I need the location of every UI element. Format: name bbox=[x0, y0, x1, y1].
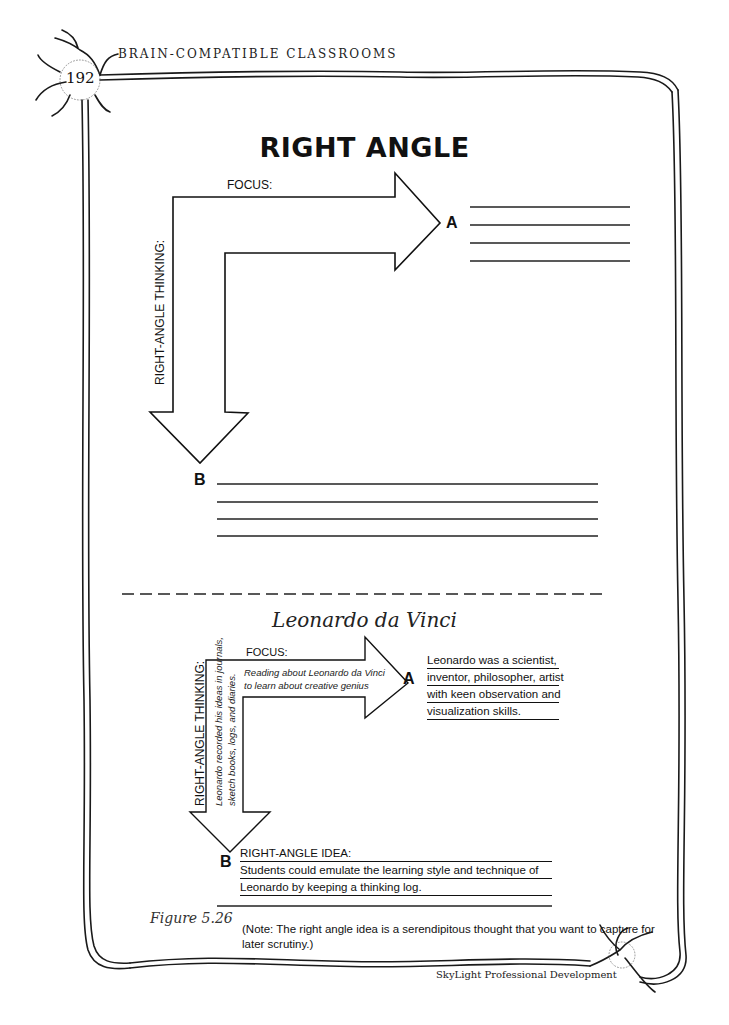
focus-text-line: Reading about Leonardo da Vinci bbox=[244, 666, 385, 679]
thinking-text-line: sketch books, logs, and diaries. bbox=[225, 637, 238, 806]
example-thinking-text: Leonardo recorded his ideas in journals,… bbox=[212, 637, 238, 806]
b-line: Leonardo by keeping a thinking log. bbox=[240, 879, 552, 896]
example-b-lines: RIGHT-ANGLE IDEA: Students could emulate… bbox=[240, 845, 552, 896]
example-a-lines: Leonardo was a scientist, inventor, phil… bbox=[427, 652, 559, 720]
b-line: Students could emulate the learning styl… bbox=[240, 862, 552, 879]
example-focus-text: Reading about Leonardo da Vinci to learn… bbox=[244, 666, 385, 692]
a-line: Leonardo was a scientist, bbox=[427, 652, 559, 669]
a-line: visualization skills. bbox=[427, 703, 559, 720]
thinking-text-line: Leonardo recorded his ideas in journals, bbox=[212, 637, 225, 806]
figure-note: (Note: The right angle idea is a serendi… bbox=[242, 922, 672, 952]
focus-text-line: to learn about creative genius bbox=[244, 679, 385, 692]
a-line: with keen observation and bbox=[427, 686, 559, 703]
example-focus-label: FOCUS: bbox=[246, 646, 288, 658]
b-line: RIGHT-ANGLE IDEA: bbox=[240, 845, 552, 862]
example-point-a-label: A bbox=[403, 670, 415, 688]
example-point-b-label: B bbox=[220, 853, 232, 871]
publisher-footer: SkyLight Professional Development bbox=[436, 969, 617, 980]
figure-caption: Figure 5.26 bbox=[150, 910, 233, 926]
example-thinking-label: RIGHT-ANGLE THINKING: bbox=[193, 661, 207, 806]
a-line: inventor, philosopher, artist bbox=[427, 669, 559, 686]
